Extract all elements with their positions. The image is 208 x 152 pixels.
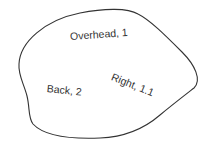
blob-shape xyxy=(0,0,208,152)
diagram-canvas: Overhead, 1 Right, 1.1 Back, 2 xyxy=(0,0,208,152)
